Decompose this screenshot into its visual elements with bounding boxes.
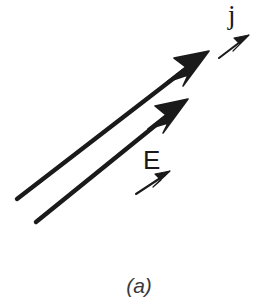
figure-panel-a: j E (a) [0, 0, 278, 305]
thick-arrow-E [36, 99, 188, 222]
small-arrow-j-head [233, 35, 249, 51]
vector-diagram [0, 0, 278, 305]
figure-caption: (a) [0, 274, 278, 298]
current-density-label: j [228, 2, 236, 29]
thick-arrow-j [17, 51, 209, 199]
small-arrow-j [219, 35, 249, 58]
electric-field-label: E [143, 147, 160, 173]
thick-arrow-E-head [148, 99, 188, 133]
